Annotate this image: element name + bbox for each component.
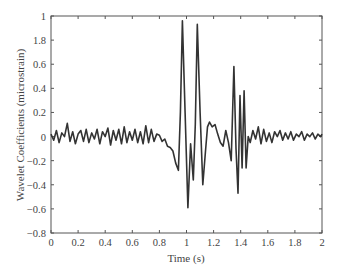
x-tick-label: 0.2 xyxy=(72,237,85,248)
x-tick-label: 0 xyxy=(48,237,53,248)
x-tick-label: 2 xyxy=(319,237,324,248)
y-tick-label: −0.8 xyxy=(27,228,46,239)
y-tick-label: 1 xyxy=(41,11,46,22)
y-tick-label: 0 xyxy=(41,132,46,143)
wavelet-chart: 11.80.60.40.20−0.2−0.4−0.6−0.8 00.20.40.… xyxy=(0,0,343,276)
y-tick-label: 1.8 xyxy=(33,35,46,46)
y-axis-ticks: 11.80.60.40.20−0.2−0.4−0.6−0.8 xyxy=(27,11,322,239)
x-axis-label: Time (s) xyxy=(167,252,205,265)
x-tick-label: 1.6 xyxy=(261,237,274,248)
signal-line xyxy=(51,21,322,208)
x-axis-ticks: 00.20.40.60.811.21.41.61.82 xyxy=(48,16,324,248)
x-tick-label: 1.4 xyxy=(234,237,248,248)
plot-area-frame xyxy=(51,16,322,233)
x-tick-label: 0.6 xyxy=(126,237,139,248)
x-tick-label: 1 xyxy=(184,237,189,248)
y-tick-label: 0.2 xyxy=(33,107,46,118)
y-tick-label: −0.4 xyxy=(27,180,47,191)
x-tick-label: 1.8 xyxy=(288,237,301,248)
y-tick-label: 0.4 xyxy=(33,83,47,94)
x-tick-label: 1.2 xyxy=(207,237,220,248)
x-tick-label: 0.4 xyxy=(99,237,113,248)
y-tick-label: 0.6 xyxy=(33,59,46,70)
x-tick-label: 0.8 xyxy=(153,237,166,248)
y-tick-label: −0.2 xyxy=(27,156,46,167)
y-tick-label: −0.6 xyxy=(27,204,46,215)
y-axis-label: Wavelet Coefficients (microstrain) xyxy=(14,49,27,202)
